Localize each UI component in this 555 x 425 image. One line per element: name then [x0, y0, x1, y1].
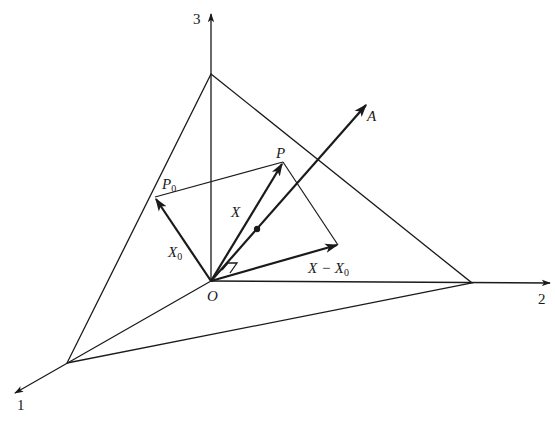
- axis-2-label: 2: [538, 292, 546, 307]
- vector-x-minus-x0-main: X − X: [308, 260, 344, 276]
- vector-x-label: X: [231, 205, 240, 220]
- vector-x-minus-x0-label: X − X0: [308, 261, 349, 276]
- vector-x0: [156, 199, 211, 281]
- vector-x0-sub: 0: [177, 251, 182, 262]
- vector-x0-main: X: [168, 244, 177, 260]
- point-p0-label: P0: [162, 177, 176, 192]
- axis-3-label: 3: [193, 12, 201, 27]
- axis-1: [15, 281, 211, 393]
- point-p0-main: P: [162, 176, 171, 192]
- point-a-label: A: [367, 109, 376, 124]
- vector-a: [211, 105, 366, 281]
- point-p-label: P: [276, 146, 285, 161]
- point-p0-sub: 0: [171, 183, 176, 194]
- axis-1-label: 1: [17, 398, 25, 413]
- axis-2: [211, 281, 550, 283]
- vector-x0-label: X0: [168, 245, 182, 260]
- point-on-a: [254, 226, 260, 232]
- origin-label: O: [207, 289, 218, 304]
- vector-diagram: [0, 0, 555, 425]
- edge-p-tip: [283, 162, 338, 245]
- plane-triangle: [67, 74, 472, 363]
- vector-x-minus-x0-sub: 0: [344, 267, 349, 278]
